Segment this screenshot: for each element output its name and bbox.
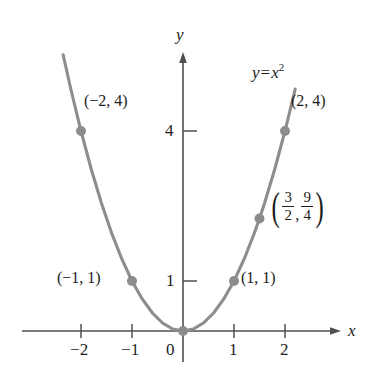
equation-label: y=x2: [252, 64, 284, 81]
equation-y: y: [252, 63, 260, 82]
fraction-numerator-3: 3: [283, 190, 295, 205]
y-axis-label: y: [176, 26, 184, 43]
data-point-pt-neg2-4: [76, 126, 86, 136]
x-tick-label--2: −2: [70, 341, 89, 358]
fraction-three-halves: 3 2: [282, 190, 294, 224]
fraction-comma: ,: [294, 207, 301, 224]
point-label-neg1-1: (−1, 1): [57, 270, 101, 286]
fraction-denominator-4: 4: [302, 208, 314, 223]
y-tick-label-1: 1: [166, 272, 175, 289]
equation-x: x: [271, 63, 279, 82]
fraction-close-paren: ): [316, 191, 324, 222]
x-tick-label-2: 2: [280, 341, 289, 358]
data-point-pt-2-4: [280, 126, 290, 136]
data-point-pt-origin: [178, 326, 188, 336]
x-axis-label: x: [348, 322, 356, 339]
point-label-neg2-4: (−2, 4): [84, 93, 128, 109]
fraction-numerator-9: 9: [302, 190, 314, 205]
y-tick-marks: [183, 131, 197, 281]
y-tick-label-4: 4: [165, 122, 174, 139]
data-point-pt-neg1-1: [127, 276, 137, 286]
point-label-2-4: (2, 4): [291, 93, 326, 109]
y-axis: [179, 52, 187, 362]
point-label-1-1: (1, 1): [241, 270, 276, 286]
fraction-open-paren: (: [272, 191, 280, 222]
fraction-nine-fourths: 9 4: [301, 190, 313, 224]
point-label-3over2-9over4: ( 3 2 , 9 4 ): [269, 190, 327, 224]
parabola-figure: y x −2 −1 0 1 2 1 4 (−2, 4) (−1, 1) (1, …: [0, 0, 378, 382]
data-point-pt-3over2: [255, 214, 265, 224]
x-tick-label--1: −1: [121, 341, 140, 358]
equation-equals: =: [260, 63, 272, 82]
equation-exponent: 2: [279, 61, 285, 73]
x-tick-label-1: 1: [229, 341, 238, 358]
x-tick-label-0: 0: [166, 341, 175, 358]
data-point-pt-1-1: [229, 276, 239, 286]
fraction-denominator-2: 2: [283, 208, 295, 223]
